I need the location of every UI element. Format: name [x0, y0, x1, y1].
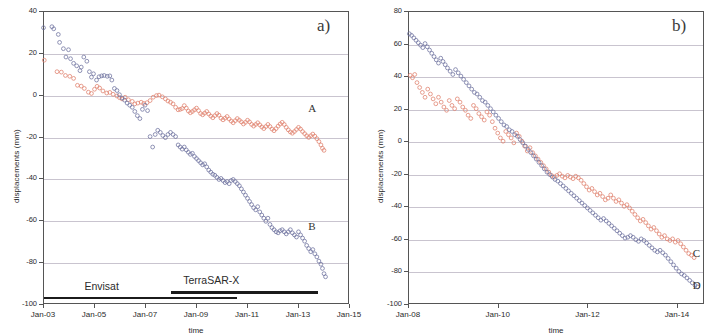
- y-tick: [39, 137, 43, 138]
- y-tick: [39, 53, 43, 54]
- panel-label-a: a): [317, 17, 330, 34]
- scatter-layer-a: [0, 0, 364, 336]
- mission-bar-terrasarx: [171, 291, 319, 294]
- x-tick-label: Jan-03: [17, 311, 69, 319]
- y-tick: [404, 109, 408, 110]
- x-tick-label: Jan-13: [272, 311, 324, 319]
- y-tick: [404, 76, 408, 77]
- y-tick: [39, 220, 43, 221]
- x-tick: [196, 304, 197, 308]
- series-a-points: [42, 58, 326, 152]
- y-tick-label: -40: [366, 202, 402, 210]
- y-tick: [404, 206, 408, 207]
- x-tick-label: Jan-08: [382, 311, 434, 319]
- y-tick: [404, 141, 408, 142]
- mission-bar-envisat: [44, 297, 237, 300]
- x-axis-title-a: time: [156, 326, 236, 335]
- y-tick-label: 20: [1, 49, 37, 57]
- scatter-layer-b: [364, 0, 728, 336]
- panel-label-b: b): [672, 17, 686, 34]
- y-tick: [404, 271, 408, 272]
- y-tick: [404, 11, 408, 12]
- y-tick-label: -100: [366, 300, 402, 308]
- y-tick-label: -100: [1, 300, 37, 308]
- series-label-a: A: [308, 103, 316, 114]
- y-tick-label: 20: [366, 105, 402, 113]
- y-tick: [39, 11, 43, 12]
- figure-two-panel-displacement-chart: 40200-20-40-60-80-100Jan-03Jan-05Jan-07J…: [0, 0, 728, 336]
- mission-label-envisat: Envisat: [72, 281, 132, 292]
- x-axis-title-b: time: [516, 326, 596, 335]
- x-tick: [587, 304, 588, 308]
- y-tick-label: -80: [1, 258, 37, 266]
- y-axis-title-a: displacements (mm): [12, 129, 21, 203]
- x-tick: [94, 304, 95, 308]
- panel-a: 40200-20-40-60-80-100Jan-03Jan-05Jan-07J…: [0, 0, 364, 336]
- y-tick: [39, 178, 43, 179]
- y-tick-label: -80: [366, 267, 402, 275]
- x-tick: [677, 304, 678, 308]
- series-label-b: B: [308, 221, 315, 232]
- x-tick-label: Jan-11: [221, 311, 273, 319]
- panel-b: 806040200-20-40-60-80-100Jan-08Jan-10Jan…: [364, 0, 728, 336]
- y-tick-label: 40: [366, 72, 402, 80]
- series-label-c: C: [693, 248, 700, 259]
- series-d-points: [407, 32, 699, 289]
- y-tick-label: 80: [366, 7, 402, 15]
- x-tick: [349, 304, 350, 308]
- x-tick-label: Jan-09: [170, 311, 222, 319]
- series-label-d: D: [693, 280, 701, 291]
- x-tick: [43, 304, 44, 308]
- y-tick: [39, 262, 43, 263]
- y-tick: [404, 174, 408, 175]
- y-tick-label: 0: [1, 91, 37, 99]
- x-tick: [145, 304, 146, 308]
- x-tick: [247, 304, 248, 308]
- y-tick: [39, 95, 43, 96]
- y-tick-label: -60: [366, 235, 402, 243]
- x-tick-label: Jan-07: [119, 311, 171, 319]
- series-b-points: [42, 25, 328, 279]
- y-tick: [404, 239, 408, 240]
- x-tick-label: Jan-10: [472, 311, 524, 319]
- x-tick-label: Jan-12: [561, 311, 613, 319]
- y-axis-title-b: displacements (mm): [376, 129, 385, 203]
- y-tick-label: 60: [366, 40, 402, 48]
- x-tick-label: Jan-14: [651, 311, 703, 319]
- series-c-points: [408, 73, 696, 260]
- x-tick: [408, 304, 409, 308]
- y-tick-label: -60: [1, 216, 37, 224]
- x-tick: [498, 304, 499, 308]
- mission-label-terrasarx: TerraSAR-X: [181, 275, 241, 286]
- y-tick-label: 40: [1, 7, 37, 15]
- x-tick: [298, 304, 299, 308]
- x-tick-label: Jan-05: [68, 311, 120, 319]
- y-tick: [404, 44, 408, 45]
